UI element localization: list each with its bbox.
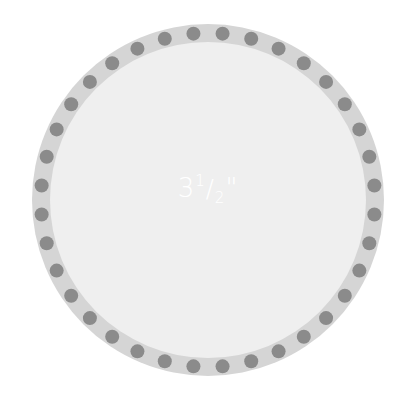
ring-dot — [297, 330, 311, 344]
ring-dot — [319, 311, 333, 325]
ring-dot — [64, 289, 78, 303]
ring-dot — [367, 178, 381, 192]
ring-dot — [83, 75, 97, 89]
ring-dot — [319, 75, 333, 89]
circle-figure: 31/2" — [0, 0, 416, 402]
ring-dot — [272, 344, 286, 358]
ring-dot — [40, 236, 54, 250]
ring-dot — [40, 150, 54, 164]
ring-dot — [130, 344, 144, 358]
ring-dot — [50, 264, 64, 278]
ring-dot — [186, 359, 200, 373]
ring-dot — [158, 354, 172, 368]
ring-dot — [338, 289, 352, 303]
ring-dot — [352, 264, 366, 278]
ring-dot — [338, 97, 352, 111]
ring-dot — [362, 150, 376, 164]
ring-dot — [216, 27, 230, 41]
ring-dot — [35, 208, 49, 222]
ring-dot — [216, 359, 230, 373]
ring-dot — [158, 32, 172, 46]
ring-dot — [50, 122, 64, 136]
ring-dot — [272, 42, 286, 56]
ring-dot — [367, 208, 381, 222]
ring-dot — [35, 178, 49, 192]
ring-dot — [244, 354, 258, 368]
ring-dot — [64, 97, 78, 111]
ring-dot — [297, 56, 311, 70]
ring-dot — [362, 236, 376, 250]
ring-dot — [130, 42, 144, 56]
ring-dot — [105, 330, 119, 344]
ring-dot — [83, 311, 97, 325]
ring-dot — [244, 32, 258, 46]
ring-dot — [186, 27, 200, 41]
inner-disc — [50, 42, 366, 358]
dotted-ring-circle — [0, 0, 416, 402]
ring-dot — [352, 122, 366, 136]
ring-dot — [105, 56, 119, 70]
